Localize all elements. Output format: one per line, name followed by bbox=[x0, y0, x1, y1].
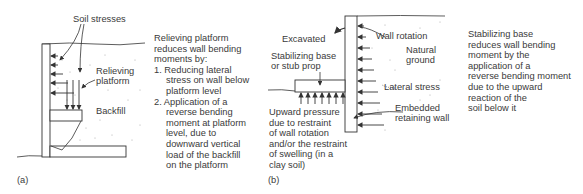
description-a-line: 2. Application of a bbox=[154, 97, 249, 108]
description-b: Stabilizing base reduces wall bending mo… bbox=[468, 29, 571, 114]
description-a-line: platform level bbox=[154, 86, 249, 97]
upward-pressure-line: and/or the restraint bbox=[269, 139, 347, 150]
label-wall-rotation: Wall rotation bbox=[376, 31, 427, 42]
upward-pressure-line: due to restraint bbox=[269, 118, 347, 129]
label-excavated: Excavated bbox=[282, 34, 325, 45]
description-a-line: Relieving platform bbox=[154, 33, 249, 44]
description-a-line: load of the backfill bbox=[154, 150, 249, 161]
upward-pressure-line: Upward pressure bbox=[269, 107, 347, 118]
label-embedded-wall-line2: retaining wall bbox=[395, 113, 449, 124]
description-a-line: level, due to bbox=[154, 128, 249, 139]
label-soil-stresses: Soil stresses bbox=[73, 14, 126, 25]
label-relieving-platform-line1: Relieving bbox=[96, 66, 134, 77]
description-b-line: soil below it bbox=[468, 103, 571, 114]
label-stabilizing-base-line2: or stub prop bbox=[271, 61, 321, 72]
description-a: Relieving platform reduces wall bending … bbox=[154, 33, 249, 171]
description-a-line: 1. Reducing lateral bbox=[154, 65, 249, 76]
description-b-line: Stabilizing base bbox=[468, 29, 571, 40]
upward-pressure-line: of wall rotation bbox=[269, 128, 347, 139]
label-embedded-wall-line1: Embedded bbox=[395, 103, 440, 114]
description-a-line: on the platform bbox=[154, 160, 249, 171]
label-natural-ground-line2: ground bbox=[406, 55, 435, 66]
description-a-line: stress on wall below bbox=[154, 75, 249, 86]
description-b-line: application of a bbox=[468, 61, 571, 72]
description-b-line: moment by the bbox=[468, 50, 571, 61]
label-relieving-platform-line2: platform bbox=[96, 76, 130, 87]
description-a-line: reduces wall bending bbox=[154, 44, 249, 55]
upward-pressure-line: clay soil) bbox=[269, 160, 347, 171]
description-a-line: downward vertical bbox=[154, 139, 249, 150]
description-a-line: moments by: bbox=[154, 54, 249, 65]
label-backfill: Backfill bbox=[96, 106, 125, 117]
figure-a-drawing bbox=[17, 24, 145, 157]
label-natural-ground-line1: Natural bbox=[406, 45, 436, 56]
description-b-line: reduces wall bending bbox=[468, 40, 571, 51]
panel-label-b: (b) bbox=[268, 175, 279, 186]
description-a-line: moment at platform bbox=[154, 118, 249, 129]
description-b-line: reaction of the bbox=[468, 93, 571, 104]
panel-label-a: (a) bbox=[17, 175, 28, 186]
description-a-line: reverse bending bbox=[154, 107, 249, 118]
upward-pressure-line: of swelling (in a bbox=[269, 149, 347, 160]
label-lateral-stress: Lateral stress bbox=[384, 82, 440, 93]
upward-pressure-note: Upward pressure due to restraint of wall… bbox=[269, 107, 347, 171]
description-b-line: reverse bending moment bbox=[468, 71, 571, 82]
label-stabilizing-base-line1: Stabilizing base bbox=[271, 51, 336, 62]
description-b-line: due to the upward bbox=[468, 82, 571, 93]
